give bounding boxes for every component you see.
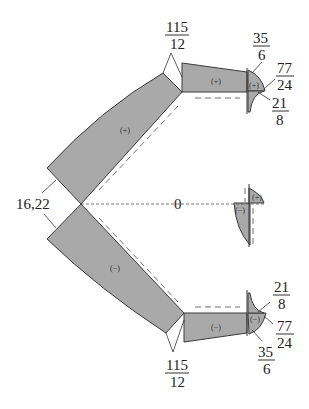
- bottom-right-a-leader: [258, 302, 270, 312]
- top-right-c-fraction: 21 8: [272, 95, 289, 128]
- top-right-c-leader: [258, 92, 270, 100]
- top-right-b-fraction: 77 24: [276, 60, 294, 93]
- upper-incline-sign: (+): [120, 126, 130, 135]
- bottom-right-b-fraction: 77 24: [276, 318, 294, 351]
- upper-tip-sign: (+): [249, 81, 259, 90]
- top-right-a-leader: [252, 62, 262, 73]
- middle-upper-sign: (+): [252, 193, 262, 202]
- svg-text:24: 24: [277, 335, 293, 351]
- top-joint-leader: [163, 53, 182, 77]
- center-value: 0: [174, 196, 182, 212]
- svg-text:12: 12: [170, 374, 185, 390]
- upper-incline-diagram: [47, 73, 182, 204]
- svg-text:115: 115: [166, 19, 188, 35]
- svg-text:115: 115: [166, 357, 188, 373]
- apex-value: 16,22: [16, 196, 50, 212]
- svg-text:8: 8: [278, 296, 286, 312]
- bottom-right-c-leader: [252, 330, 262, 341]
- svg-text:12: 12: [170, 36, 185, 52]
- bottom-right-a-fraction: 21 8: [273, 279, 290, 312]
- lower-horizontal-sign: (−): [211, 323, 221, 332]
- top-right-b-leader: [264, 79, 275, 89]
- bottom-right-b-leader: [264, 316, 273, 324]
- svg-text:6: 6: [258, 47, 266, 63]
- lower-tip-tail: [248, 293, 264, 313]
- svg-text:35: 35: [253, 30, 268, 46]
- lower-tip-sign: (−): [250, 315, 260, 324]
- top-joint-fraction: 115 12: [165, 19, 189, 52]
- bottom-right-c-fraction: 35 6: [258, 344, 275, 377]
- middle-lower-sign: (−): [235, 206, 245, 215]
- apex-dim-upper: [42, 180, 56, 193]
- svg-text:77: 77: [277, 318, 293, 334]
- svg-text:24: 24: [277, 77, 293, 93]
- svg-text:35: 35: [258, 344, 273, 360]
- svg-text:8: 8: [276, 112, 284, 128]
- svg-text:21: 21: [272, 95, 287, 111]
- force-diagram: (+) (+) (+) (+) (−) (−) (−) (−) 16,22 0 …: [0, 0, 309, 409]
- apex-dim-lower: [44, 214, 56, 228]
- upper-horizontal-sign: (+): [211, 77, 221, 86]
- lower-incline-sign: (−): [110, 264, 120, 273]
- svg-text:77: 77: [277, 60, 293, 76]
- svg-text:21: 21: [274, 279, 289, 295]
- top-right-a-fraction: 35 6: [253, 30, 270, 63]
- svg-text:6: 6: [263, 361, 271, 377]
- bottom-joint-fraction: 115 12: [165, 357, 189, 390]
